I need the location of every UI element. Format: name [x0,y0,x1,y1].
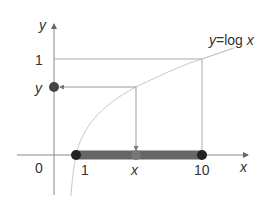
dot-x-mid [131,150,141,160]
y-tick-1: 1 [35,52,43,68]
dot-y [49,82,59,92]
x-tick-x: x [130,162,139,178]
curve-label-leader [202,48,234,59]
dot-x-10 [197,150,207,160]
log-graph-diagram: y x 0 1 y 1 x 10 y=log x [0,0,275,205]
origin-label: 0 [35,160,43,176]
dot-x-1 [71,150,81,160]
x-tick-1: 1 [81,162,89,178]
y-tick-y: y [34,80,43,96]
x-tick-10: 10 [194,162,210,178]
x-axis-label: x [239,159,248,175]
function-label: y=log x [208,32,255,48]
y-axis-label: y [38,17,47,33]
